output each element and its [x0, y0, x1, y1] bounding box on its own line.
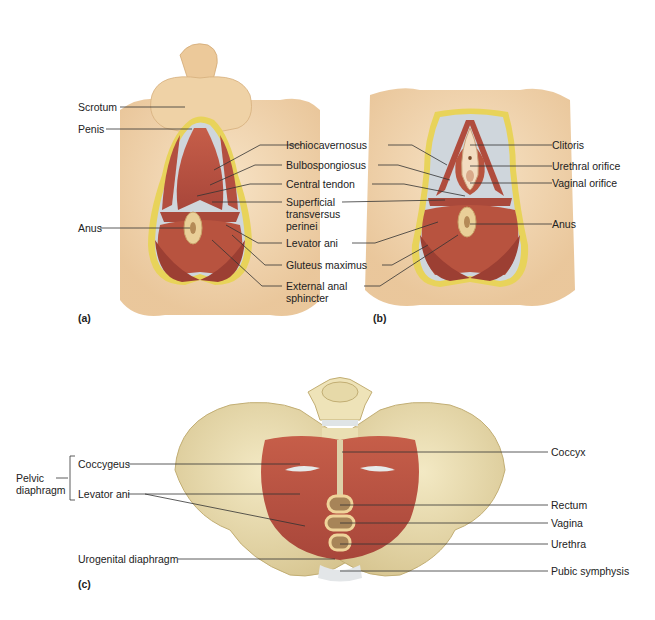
label-scrotum: Scrotum [78, 101, 117, 113]
label-ischiocavernosus: Ischiocavernosus [286, 139, 367, 151]
label-central-tendon: Central tendon [286, 178, 355, 190]
label-pubic-symphysis: Pubic symphysis [551, 565, 629, 577]
panel-label-b: (b) [373, 312, 386, 324]
label-vagina: Vagina [551, 517, 583, 529]
panel-label-a: (a) [78, 312, 91, 324]
label-urethra: Urethra [551, 538, 586, 550]
label-superficial-transversus-perinei: Superficial transversus perinei [286, 196, 340, 232]
label-anus-male: Anus [78, 222, 102, 234]
label-external-anal-sphincter: External anal sphincter [286, 280, 347, 304]
label-gluteus-maximus: Gluteus maximus [286, 259, 367, 271]
label-anus-female: Anus [552, 218, 576, 230]
label-bulbospongiosus: Bulbospongiosus [286, 159, 366, 171]
panel-b-illustration [365, 88, 575, 306]
label-levator-ani-pelvic: Levator ani [78, 488, 130, 500]
label-rectum: Rectum [551, 499, 587, 511]
pelvic-floor-figure: Scrotum Penis Anus Ischiocavernosus Bulb… [0, 0, 655, 620]
label-pelvic-diaphragm: Pelvic diaphragm [16, 472, 66, 496]
label-levator-ani-perineum: Levator ani [286, 237, 338, 249]
label-coccyx: Coccyx [551, 446, 585, 458]
label-urethral-orifice: Urethral orifice [552, 160, 620, 172]
label-penis: Penis [78, 123, 104, 135]
label-clitoris: Clitoris [552, 139, 584, 151]
panel-c-illustration [175, 378, 505, 582]
panel-label-c: (c) [78, 578, 91, 590]
label-coccygeus: Coccygeus [78, 458, 130, 470]
label-vaginal-orifice: Vaginal orifice [552, 177, 617, 189]
label-urogenital-diaphragm: Urogenital diaphragm [78, 553, 178, 565]
